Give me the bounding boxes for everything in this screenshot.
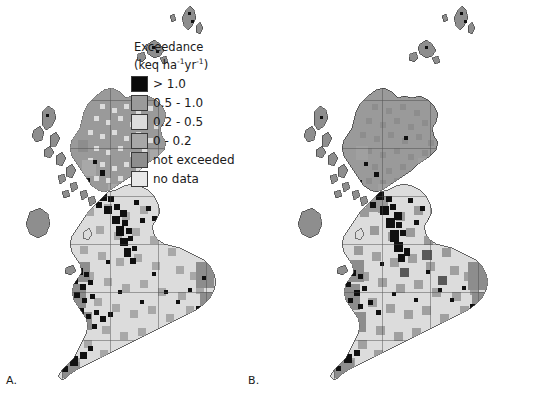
legend-title-exceedance: Exceedance (keq ha-1yr-1)	[134, 41, 235, 72]
figure-root: Exceedance (keq ha-1yr-1) > 1.0 0.5 - 1.…	[0, 0, 543, 401]
scotland-body-b	[342, 88, 438, 192]
map-landmass-b	[272, 0, 543, 401]
northern-ireland-a	[26, 208, 50, 238]
northern-ireland-b	[298, 208, 322, 238]
legend-swatch-icon	[131, 133, 148, 149]
legend-row[interactable]: > 1.0	[131, 75, 235, 94]
legend-swatch-icon	[131, 76, 148, 92]
legend-label: 0.2 - 0.5	[153, 115, 203, 129]
anglesey-a	[65, 265, 76, 275]
legend-row[interactable]: 0 - 0.2	[131, 132, 235, 151]
legend-row[interactable]: no data	[131, 170, 235, 189]
legend-swatch-icon	[131, 114, 148, 130]
legend-exceedance: Exceedance (keq ha-1yr-1) > 1.0 0.5 - 1.…	[131, 41, 235, 189]
anglesey-b	[337, 265, 348, 275]
legend-label: > 1.0	[153, 77, 186, 91]
legend-row[interactable]: 0.2 - 0.5	[131, 113, 235, 132]
panel-b: FAB class reduce S & N reduce S then S o…	[272, 0, 543, 401]
legend-items-exceedance: > 1.0 0.5 - 1.0 0.2 - 0.5 0 - 0.2 not ex…	[131, 75, 235, 189]
legend-label: no data	[153, 172, 199, 186]
legend-swatch-icon	[131, 95, 148, 111]
legend-label: 0.5 - 1.0	[153, 96, 203, 110]
legend-swatch-icon	[131, 152, 148, 168]
legend-label: not exceeded	[153, 153, 235, 167]
legend-row[interactable]: 0.5 - 1.0	[131, 94, 235, 113]
panel-label-b: B.	[248, 374, 259, 387]
legend-row[interactable]: not exceeded	[131, 151, 235, 170]
panel-a: Exceedance (keq ha-1yr-1) > 1.0 0.5 - 1.…	[0, 0, 271, 401]
legend-swatch-icon	[131, 171, 148, 187]
uk-map-fab-class	[272, 0, 543, 401]
legend-label: 0 - 0.2	[153, 134, 192, 148]
panel-label-a: A.	[6, 374, 17, 387]
